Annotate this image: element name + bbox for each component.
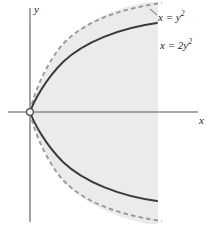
inner-curve-label: x = 2y2	[160, 38, 192, 51]
shaded-region	[30, 2, 170, 224]
outer-curve-label: x = y2	[158, 10, 184, 23]
x-axis-label: x	[199, 115, 204, 126]
inner-curve-label-text: x = 2y	[160, 39, 188, 51]
origin-open-circle-marker	[27, 109, 34, 116]
y-axis-label: y	[34, 4, 39, 15]
outer-curve-label-text: x = y	[158, 11, 181, 23]
parabola-region-figure: x = y2 x = 2y2 y x	[0, 0, 215, 226]
outer-curve-label-exponent: 2	[181, 9, 185, 18]
inner-curve-label-exponent: 2	[188, 37, 192, 46]
plot-canvas	[0, 0, 215, 226]
